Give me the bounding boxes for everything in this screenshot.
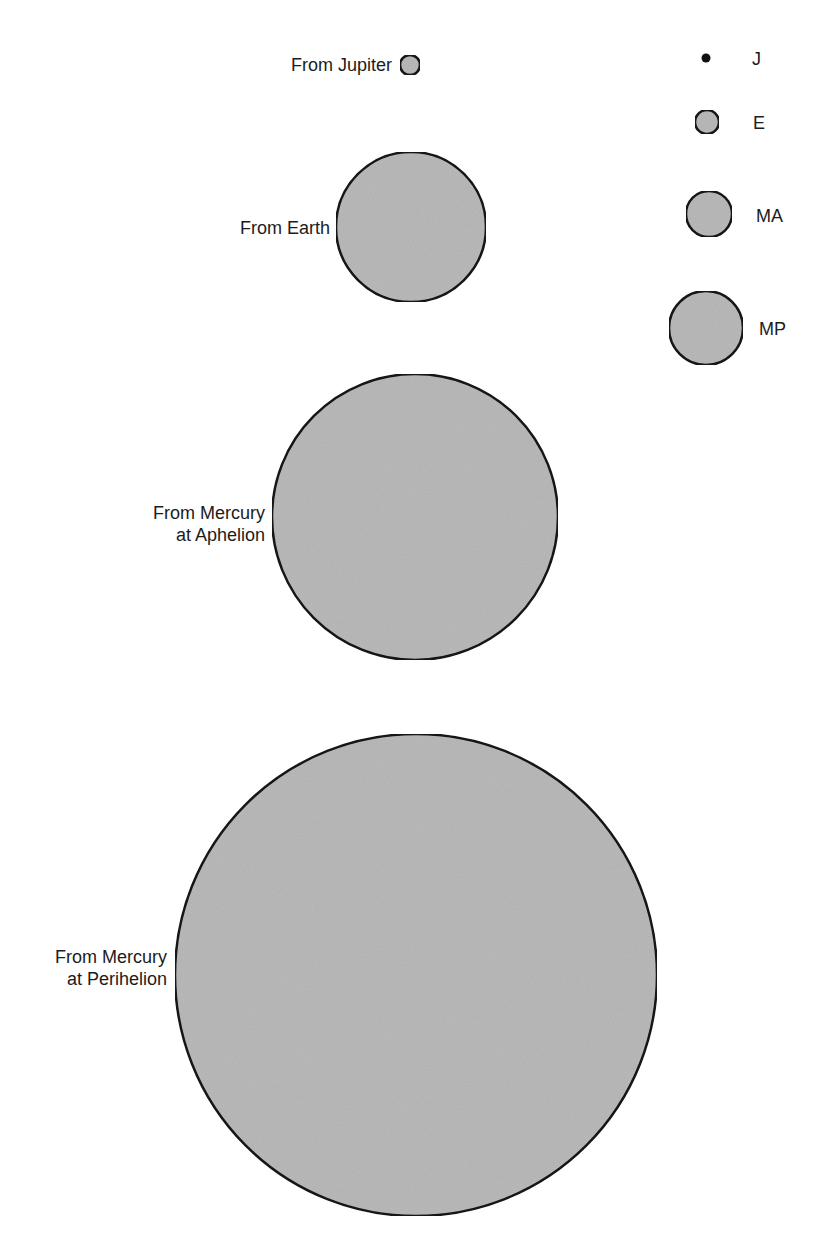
- label-from-jupiter: From Jupiter: [291, 54, 392, 76]
- legend-key-mp: MP: [759, 318, 786, 340]
- sun-disc-from-earth: [336, 152, 486, 302]
- label-from-earth: From Earth: [240, 217, 330, 239]
- sun-disc-from-mercury-aphelion: [272, 374, 558, 660]
- legend-key-e: E: [753, 112, 765, 134]
- label-from-mercury-aphelion: From Mercury at Aphelion: [153, 502, 265, 546]
- label-line: From Earth: [240, 217, 330, 239]
- sun-disc-from-mercury-perihelion: [175, 734, 657, 1216]
- sun-disc-from-jupiter: [400, 55, 420, 75]
- sun-size-diagram: [0, 0, 828, 1244]
- legend-disc-earth-icon: [695, 110, 719, 134]
- label-from-mercury-perihelion: From Mercury at Perihelion: [55, 946, 167, 990]
- legend-key-j: J: [752, 48, 761, 70]
- legend-disc-mercury-perihelion-icon: [669, 291, 743, 365]
- legend-disc-mercury-aphelion-icon: [686, 191, 732, 237]
- legend-dot-jupiter-icon: [702, 54, 711, 63]
- label-line: at Perihelion: [55, 968, 167, 990]
- legend-key-ma: MA: [756, 205, 783, 227]
- label-line: From Mercury: [55, 946, 167, 968]
- label-line: From Mercury: [153, 502, 265, 524]
- label-line: From Jupiter: [291, 54, 392, 76]
- label-line: at Aphelion: [153, 524, 265, 546]
